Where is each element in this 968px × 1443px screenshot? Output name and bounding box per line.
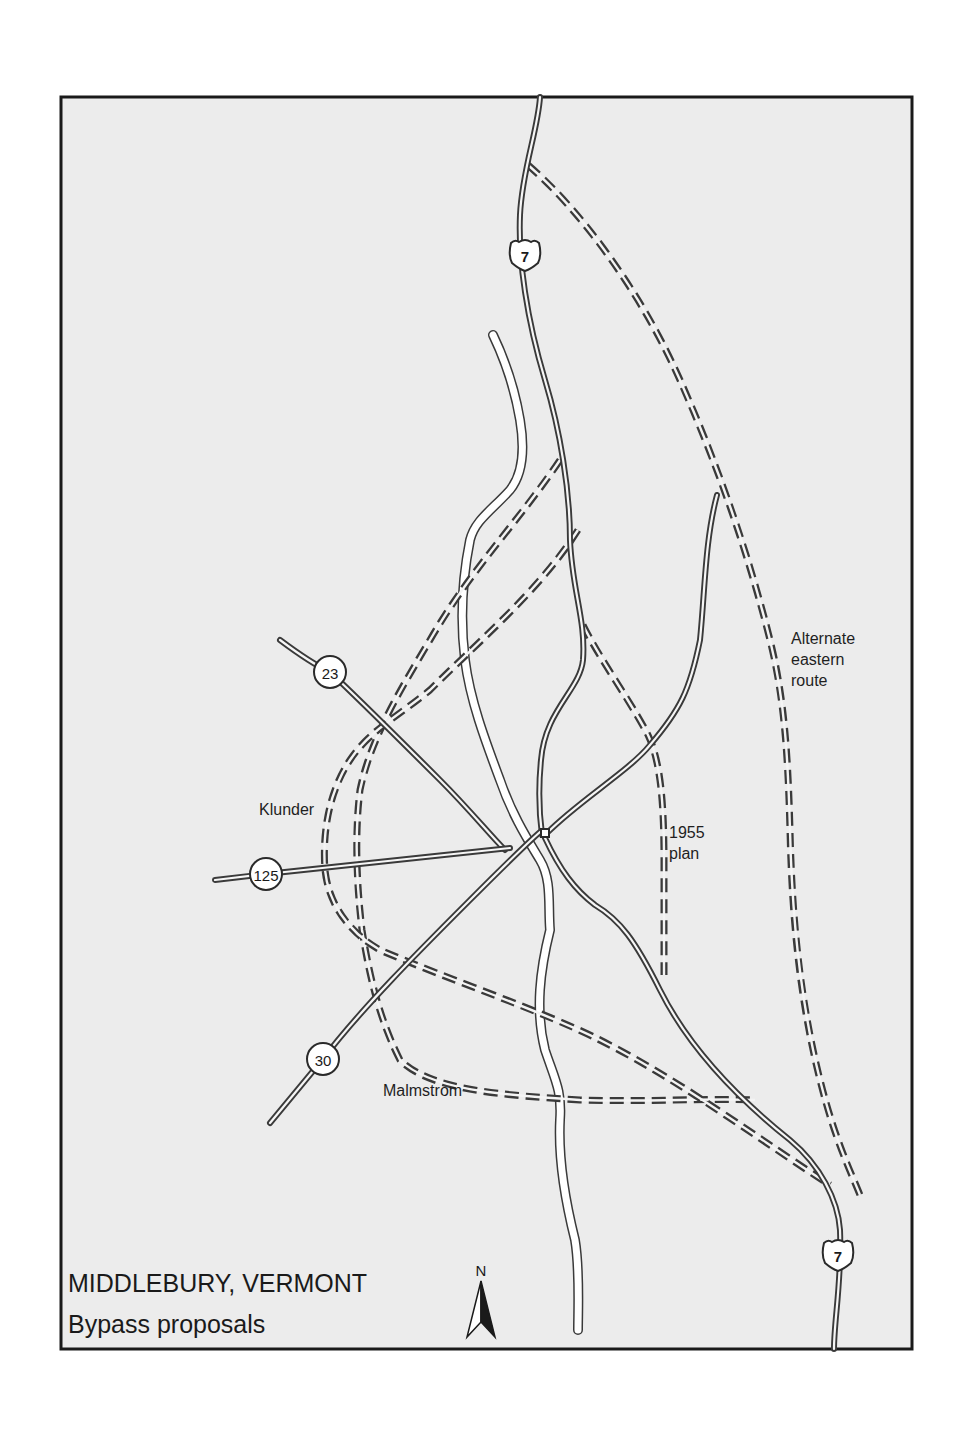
shield-number: 23 bbox=[322, 665, 339, 682]
shield-number: 30 bbox=[315, 1052, 332, 1069]
route-shield-vt-30: 30 bbox=[307, 1043, 339, 1075]
route-shield-vt-23: 23 bbox=[314, 656, 346, 688]
route-shield-vt-125: 125 bbox=[250, 858, 282, 890]
map-title: MIDDLEBURY, VERMONT bbox=[68, 1269, 367, 1297]
label-line: Malmstrom bbox=[383, 1082, 462, 1099]
label-line: 1955 bbox=[669, 824, 705, 841]
map-subtitle: Bypass proposals bbox=[68, 1310, 265, 1338]
shield-number: 7 bbox=[834, 1248, 842, 1265]
shield-number: 125 bbox=[253, 867, 278, 884]
label-line: Alternate bbox=[791, 630, 855, 647]
label-line: plan bbox=[669, 845, 699, 862]
label-klunder: Klunder bbox=[259, 801, 315, 818]
label-line: eastern bbox=[791, 651, 844, 668]
label-line: route bbox=[791, 672, 828, 689]
north-arrow-label: N bbox=[476, 1262, 487, 1279]
label-line: Klunder bbox=[259, 801, 315, 818]
shield-number: 7 bbox=[521, 248, 529, 265]
town-center-marker bbox=[541, 829, 549, 837]
label-malmstrom: Malmstrom bbox=[383, 1082, 462, 1099]
bypass-map: 772312530 Klunder1955planAlternateeaster… bbox=[0, 0, 968, 1443]
